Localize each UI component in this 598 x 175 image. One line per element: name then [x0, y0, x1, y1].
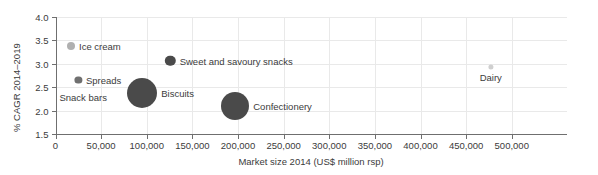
bubble-label-spreads: Spreads — [86, 75, 121, 86]
x-tick-label: 50,000 — [87, 140, 116, 151]
bubble-label-dairy: Dairy — [480, 71, 502, 82]
bubble-confectionery[interactable] — [221, 92, 249, 120]
y-tick-label: 4.0 — [0, 12, 49, 23]
gridline-vertical — [192, 17, 193, 134]
y-tick-label: 2.5 — [0, 82, 49, 93]
bubble-spreads[interactable] — [75, 77, 82, 84]
x-tick-mark — [421, 135, 422, 139]
x-tick-label: 300,000 — [312, 140, 346, 151]
y-tick-mark — [52, 134, 56, 135]
y-tick-label: 2.0 — [0, 105, 49, 116]
y-tick-mark — [52, 87, 56, 88]
y-tick-mark — [52, 40, 56, 41]
x-tick-mark — [56, 135, 57, 139]
gridline-horizontal — [56, 17, 567, 18]
x-tick-mark — [101, 135, 102, 139]
x-tick-mark — [284, 135, 285, 139]
y-tick-label: 3.0 — [0, 58, 49, 69]
x-tick-label: 250,000 — [266, 140, 300, 151]
x-tick-label: 350,000 — [358, 140, 392, 151]
x-tick-mark — [192, 135, 193, 139]
gridline-vertical — [375, 17, 376, 134]
bubble-chart: 050,000100,000150,000200,000250,000300,0… — [0, 0, 598, 175]
y-tick-mark — [52, 111, 56, 112]
x-tick-label: 150,000 — [175, 140, 209, 151]
x-tick-label: 200,000 — [221, 140, 255, 151]
y-axis-line — [56, 17, 57, 134]
y-tick-mark — [52, 17, 56, 18]
gridline-horizontal — [56, 40, 567, 41]
bubble-ice-cream[interactable] — [67, 42, 75, 50]
x-tick-label: 0 — [53, 140, 58, 151]
y-axis-title: % CAGR 2014–2019 — [11, 43, 22, 132]
x-tick-mark — [147, 135, 148, 139]
gridline-vertical — [329, 17, 330, 134]
bubble-label-snack-bars: Snack bars — [59, 92, 107, 103]
x-tick-label: 400,000 — [403, 140, 437, 151]
gridline-vertical — [466, 17, 467, 134]
x-tick-mark — [329, 135, 330, 139]
x-tick-label: 500,000 — [495, 140, 529, 151]
y-tick-label: 3.5 — [0, 35, 49, 46]
gridline-vertical — [284, 17, 285, 134]
gridline-vertical — [512, 17, 513, 134]
x-tick-mark — [375, 135, 376, 139]
x-axis-title: Market size 2014 (US$ million rsp) — [238, 156, 383, 167]
y-tick-label: 1.5 — [0, 129, 49, 140]
gridline-vertical — [147, 17, 148, 134]
bubble-biscuits[interactable] — [127, 78, 157, 108]
x-tick-label: 450,000 — [449, 140, 483, 151]
bubble-label-sweet-and-savoury-snacks: Sweet and savoury snacks — [180, 55, 293, 66]
bubble-label-confectionery: Confectionery — [253, 100, 312, 111]
bubble-label-ice-cream: Ice cream — [79, 41, 121, 52]
bubble-dairy[interactable] — [488, 64, 493, 69]
x-tick-mark — [238, 135, 239, 139]
bubble-label-biscuits: Biscuits — [161, 88, 194, 99]
x-tick-mark — [466, 135, 467, 139]
x-axis-line — [56, 134, 567, 135]
x-tick-label: 100,000 — [130, 140, 164, 151]
y-tick-mark — [52, 64, 56, 65]
gridline-vertical — [421, 17, 422, 134]
x-tick-mark — [512, 135, 513, 139]
